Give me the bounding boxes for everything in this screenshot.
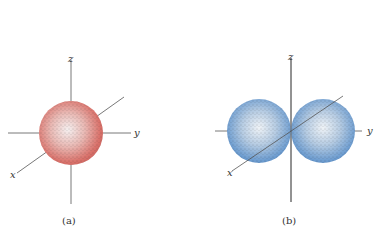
z-label: z (67, 53, 74, 64)
y-label: y (366, 125, 373, 136)
orbital-figure: z y x (a) z y x (b) (0, 0, 380, 237)
x-label: x (227, 167, 233, 178)
y-label: y (133, 127, 140, 138)
x-label: x (10, 169, 16, 180)
panel-a: z y x (a) (8, 53, 140, 226)
caption-a: (a) (62, 215, 76, 226)
z-label: z (287, 51, 294, 62)
panel-b: z y x (b) (215, 51, 373, 226)
caption-b: (b) (282, 215, 296, 226)
